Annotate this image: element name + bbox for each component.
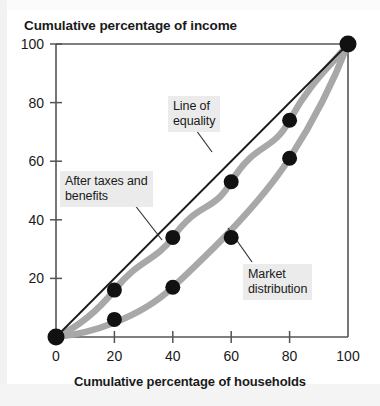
annotation-line-of-equality: Line of equality <box>168 96 220 132</box>
y-tick-label: 80 <box>28 95 44 111</box>
data-point <box>48 329 65 346</box>
y-tick-label: 100 <box>21 36 45 52</box>
annotation-text-line-2: equality <box>173 114 215 129</box>
x-tick-label: 0 <box>52 348 60 364</box>
x-tick-label: 80 <box>282 348 298 364</box>
x-axis-label: Cumulative percentage of households <box>0 374 380 389</box>
data-point <box>165 230 180 245</box>
x-tick-label: 60 <box>223 348 239 364</box>
data-point <box>340 36 357 53</box>
x-tick-label: 20 <box>107 348 123 364</box>
data-point <box>224 174 239 189</box>
data-point <box>107 312 122 327</box>
annotation-text-line-1: Market <box>248 267 307 282</box>
data-point <box>224 230 239 245</box>
annotation-text-line-2: distribution <box>248 282 307 297</box>
annotation-after-taxes-and-benefits: After taxes and benefits <box>60 171 153 207</box>
plot-area: 100 80 60 40 20 0 20 40 60 80 100 <box>0 0 380 406</box>
x-tick-label: 40 <box>165 348 181 364</box>
data-point <box>107 283 122 298</box>
leader-line-after-taxes <box>134 204 162 240</box>
data-point <box>165 280 180 295</box>
x-tick-labels: 0 20 40 60 80 100 <box>52 348 360 364</box>
data-point <box>282 151 297 166</box>
x-tick-label: 100 <box>336 348 360 364</box>
annotation-market-distribution: Market distribution <box>243 264 312 300</box>
leader-line-equality <box>196 130 212 152</box>
y-tick-labels: 100 80 60 40 20 <box>21 36 45 286</box>
y-tick-label: 20 <box>28 270 44 286</box>
y-tick-label: 60 <box>28 153 44 169</box>
y-tick-label: 40 <box>28 212 44 228</box>
annotation-text-line-1: Line of <box>173 99 215 114</box>
lorenz-curve-figure: Cumulative percentage of income 100 <box>0 0 380 406</box>
annotation-text-line-1: After taxes and <box>65 174 148 189</box>
data-point <box>282 113 297 128</box>
annotation-text-line-2: benefits <box>65 189 148 204</box>
